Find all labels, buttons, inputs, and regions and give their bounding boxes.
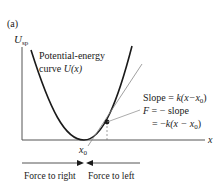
curve-label-line2: curve U(x) [39, 64, 82, 74]
slope-equation: Slope = k(x−x0) [143, 93, 207, 105]
y-axis-label: Usp [14, 34, 28, 47]
hooke-equation: = −k(x − x0) [152, 119, 201, 131]
panel-label: (a) [7, 19, 18, 29]
curve-label-line1: Potential-energy [39, 51, 105, 61]
force-to-left-label: Force to left [88, 172, 134, 182]
x-axis-label: x [208, 135, 212, 145]
force-equation: F = − slope [143, 106, 189, 116]
force-right-arrowhead-icon [77, 160, 84, 166]
pointer-line [107, 110, 140, 122]
force-left-arrowhead-icon [86, 160, 93, 166]
equilibrium-label: x0 [79, 145, 87, 157]
force-to-right-label: Force to right [24, 172, 76, 182]
tangent-line [88, 64, 142, 146]
potential-energy-diagram: (a) Usp Potential-energy curve U(x) Slop… [0, 0, 224, 189]
